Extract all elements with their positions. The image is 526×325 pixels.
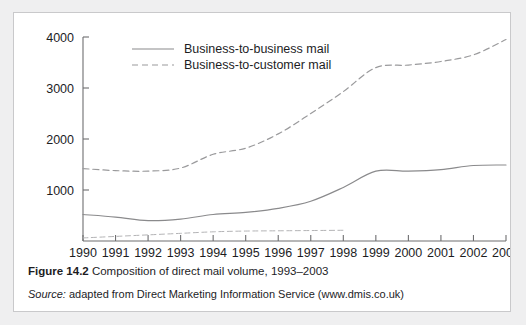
- series-line-business-to-business-mail: [83, 165, 506, 221]
- x-tick-label-2002: 2002: [460, 246, 488, 260]
- source-label: Source:: [28, 288, 66, 300]
- x-tick-label-1992: 1992: [134, 246, 162, 260]
- x-tick-label-1994: 1994: [199, 246, 227, 260]
- x-axis-tick-marks: [83, 235, 506, 241]
- x-tick-label-1995: 1995: [232, 246, 260, 260]
- source-text: adapted from Direct Marketing Informatio…: [69, 288, 404, 300]
- x-tick-label-1997: 1997: [297, 246, 325, 260]
- x-tick-label-1998: 1998: [329, 246, 357, 260]
- chart-plot-area: 1000200030004000 19901991199219931994199…: [14, 13, 510, 261]
- figure-caption: Figure 14.2 Composition of direct mail v…: [28, 263, 496, 280]
- x-tick-label-2003: 2003: [492, 246, 510, 260]
- figure-caption-text: Composition of direct mail volume, 1993–…: [92, 265, 329, 277]
- figure-number: Figure 14.2: [28, 265, 89, 277]
- y-tick-label-1000: 1000: [46, 184, 74, 198]
- figure-container: 1000200030004000 19901991199219931994199…: [13, 12, 511, 312]
- legend-label-business-to-customer: Business-to-customer mail: [184, 58, 331, 72]
- x-tick-label-1996: 1996: [264, 246, 292, 260]
- figure-caption-block: Figure 14.2 Composition of direct mail v…: [14, 263, 510, 302]
- x-tick-label-2001: 2001: [427, 246, 455, 260]
- y-axis-tick-labels: 1000200030004000: [46, 31, 74, 198]
- x-tick-label-1990: 1990: [69, 246, 97, 260]
- y-axis-tick-marks: [83, 37, 89, 190]
- x-tick-label-2000: 2000: [394, 246, 422, 260]
- y-tick-label-3000: 3000: [46, 82, 74, 96]
- figure-source: Source: adapted from Direct Marketing In…: [28, 287, 496, 302]
- x-tick-label-1999: 1999: [362, 246, 390, 260]
- line-chart: 1000200030004000 19901991199219931994199…: [14, 13, 510, 261]
- y-tick-label-2000: 2000: [46, 133, 74, 147]
- x-tick-label-1993: 1993: [167, 246, 195, 260]
- chart-legend: Business-to-business mail Business-to-cu…: [132, 42, 331, 72]
- x-axis-tick-labels: 1990199119921993199419951996199719981999…: [69, 246, 510, 260]
- y-tick-label-4000: 4000: [46, 31, 74, 45]
- legend-label-business-to-business: Business-to-business mail: [184, 42, 329, 56]
- x-tick-label-1991: 1991: [102, 246, 130, 260]
